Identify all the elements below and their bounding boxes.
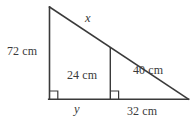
label-base-right: 32 cm	[127, 105, 157, 117]
label-base-y: y	[74, 103, 80, 115]
right-angle-marker-left	[50, 91, 58, 99]
hypotenuse-line	[50, 7, 189, 99]
geometry-figure: 72 cm x 24 cm 40 cm y 32 cm	[0, 0, 195, 132]
label-left-leg: 72 cm	[7, 45, 37, 57]
right-angle-marker-inner	[110, 91, 118, 99]
label-hypotenuse-x: x	[85, 12, 91, 24]
label-hypotenuse-lower: 40 cm	[133, 64, 163, 76]
label-inner-segment: 24 cm	[67, 69, 97, 81]
triangle-drawing	[0, 0, 195, 132]
